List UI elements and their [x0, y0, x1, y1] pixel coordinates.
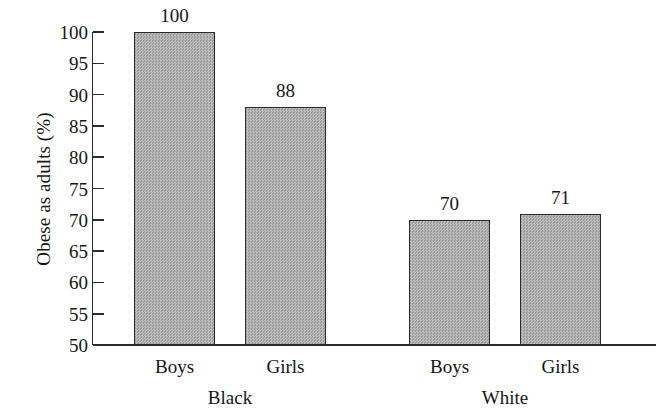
bar-white-girls — [520, 214, 601, 345]
x-category-label-white-boys: Boys — [391, 357, 508, 376]
bar-value-label: 88 — [245, 81, 326, 100]
bar-black-boys — [134, 32, 215, 345]
x-category-label-black-girls: Girls — [227, 357, 344, 376]
x-category-label-black-boys: Boys — [116, 357, 233, 376]
x-category-label-white-girls: Girls — [502, 357, 619, 376]
bar-value-label: 100 — [134, 6, 215, 25]
bar-black-girls — [245, 107, 326, 345]
bar-white-boys — [409, 220, 490, 345]
x-group-label-black: Black — [150, 388, 310, 407]
bar-value-label: 71 — [520, 188, 601, 207]
bar-value-label: 70 — [409, 194, 490, 213]
bar-chart: Obese as adults (%) 10095908580757065605… — [0, 0, 660, 412]
x-group-label-white: White — [425, 388, 585, 407]
